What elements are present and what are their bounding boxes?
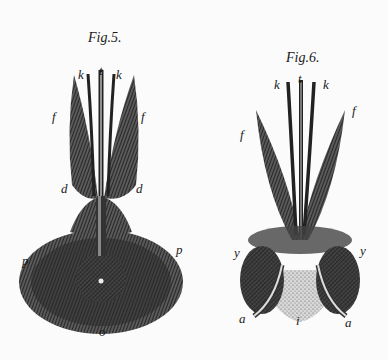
fig5-label-k-left: k — [78, 68, 84, 81]
fig5-label-d-right: d — [136, 182, 143, 195]
fig6-label-a-right: a — [345, 316, 352, 329]
fig6-label-k-right: k — [323, 78, 329, 91]
fig5-label-t: t — [99, 64, 103, 77]
fig6-label-t: t — [298, 72, 302, 85]
fig6-label-f-left: f — [240, 128, 244, 141]
figure-6-drawing — [240, 80, 360, 322]
fig5-label-f-right: f — [141, 110, 145, 123]
fig6-label-a-left: a — [239, 312, 246, 325]
fig5-label-d-left: d — [61, 182, 68, 195]
fig6-label-k-left: k — [274, 78, 280, 91]
figure-5-drawing — [19, 70, 183, 334]
figure-6-title: Fig.6. — [286, 50, 319, 66]
figure-5-title: Fig.5. — [88, 30, 121, 46]
fig5-label-p-left: p — [22, 254, 29, 267]
engraving-plate — [0, 0, 388, 360]
fig6-label-i: i — [296, 314, 300, 327]
fig5-label-o: o — [99, 325, 106, 338]
fig5-label-f-left: f — [52, 110, 56, 123]
fig6-label-f-right: f — [352, 104, 356, 117]
fig6-label-y-right: y — [360, 244, 366, 257]
fig5-label-k-right: k — [116, 68, 122, 81]
fig6-label-y-left: y — [234, 246, 240, 259]
fig5-ovary — [76, 253, 126, 303]
fig5-label-p-right: p — [176, 243, 183, 256]
